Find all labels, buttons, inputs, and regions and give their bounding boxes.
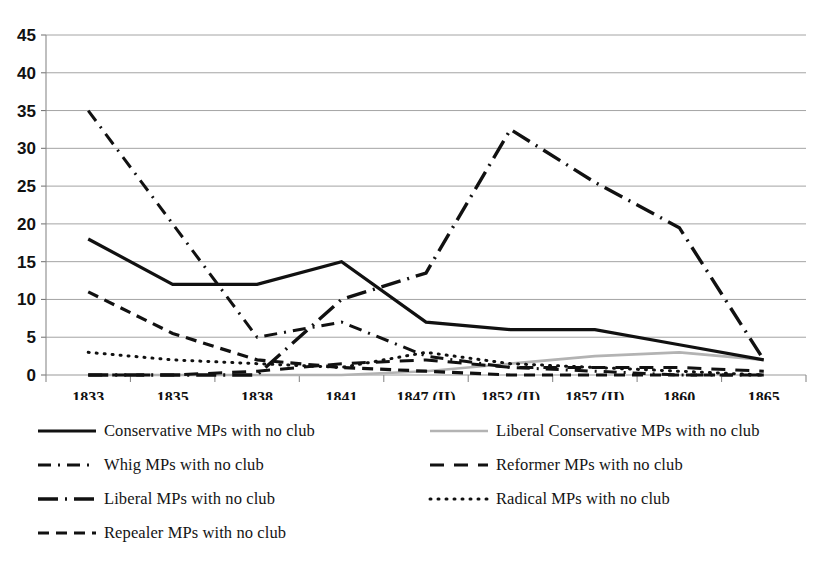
longdashdot-line-swatch bbox=[36, 490, 98, 508]
x-axis-tick-label: 1841 bbox=[326, 389, 358, 400]
legend-item-liberal-conservative: Liberal Conservative MPs with no club bbox=[428, 418, 808, 444]
legend-item-radical: Radical MPs with no club bbox=[428, 486, 808, 512]
x-axis-tick-label: 1857 (II) bbox=[565, 389, 624, 400]
shortdash-line-swatch bbox=[36, 524, 98, 542]
y-axis-tick-label: 10 bbox=[17, 290, 36, 309]
legend-item-whig: Whig MPs with no club bbox=[36, 452, 436, 478]
x-axis-tick-label: 1865 bbox=[748, 389, 780, 400]
x-axis-tick-label: 1838 bbox=[241, 389, 273, 400]
legend-label: Radical MPs with no club bbox=[496, 489, 670, 509]
x-axis-tick-label: 1852 (II) bbox=[481, 389, 540, 400]
y-axis-tick-label: 0 bbox=[27, 366, 36, 385]
legend-item-liberal: Liberal MPs with no club bbox=[36, 486, 436, 512]
legend-label: Whig MPs with no club bbox=[104, 455, 264, 475]
legend-label: Liberal Conservative MPs with no club bbox=[496, 421, 760, 441]
y-axis-tick-label: 45 bbox=[17, 26, 36, 45]
y-axis-tick-label: 5 bbox=[27, 328, 36, 347]
legend-label: Reformer MPs with no club bbox=[496, 455, 683, 475]
y-axis-tick-label: 40 bbox=[17, 64, 36, 83]
series-line bbox=[88, 292, 764, 375]
plot-area: 05101520253035404518331835183818411847 (… bbox=[0, 0, 816, 400]
y-axis-tick-label: 25 bbox=[17, 177, 36, 196]
legend-item-conservative: Conservative MPs with no club bbox=[36, 418, 436, 444]
y-axis-tick-label: 15 bbox=[17, 253, 36, 272]
legend-label: Repealer MPs with no club bbox=[104, 523, 286, 543]
x-axis-tick-label: 1835 bbox=[157, 389, 189, 400]
legend-item-repealer: Repealer MPs with no club bbox=[36, 520, 436, 546]
solid-gray-line-swatch bbox=[428, 422, 490, 440]
solid-line-swatch bbox=[36, 422, 98, 440]
chart-legend: Conservative MPs with no club Whig MPs w… bbox=[36, 418, 806, 548]
x-axis-tick-label: 1860 bbox=[663, 389, 695, 400]
y-axis-tick-label: 20 bbox=[17, 215, 36, 234]
dash-line-swatch bbox=[428, 456, 490, 474]
legend-item-reformer: Reformer MPs with no club bbox=[428, 452, 808, 478]
x-axis-tick-label: 1847 (II) bbox=[396, 389, 455, 400]
legend-label: Conservative MPs with no club bbox=[104, 421, 315, 441]
dashdot-line-swatch bbox=[36, 456, 98, 474]
series-line bbox=[88, 111, 764, 375]
y-axis-tick-label: 30 bbox=[17, 139, 36, 158]
plot-svg: 05101520253035404518331835183818411847 (… bbox=[0, 0, 816, 400]
line-chart-figure: 05101520253035404518331835183818411847 (… bbox=[0, 0, 816, 571]
dot-line-swatch bbox=[428, 490, 490, 508]
legend-label: Liberal MPs with no club bbox=[104, 489, 275, 509]
y-axis-tick-label: 35 bbox=[17, 102, 36, 121]
x-axis-tick-label: 1833 bbox=[72, 389, 104, 400]
